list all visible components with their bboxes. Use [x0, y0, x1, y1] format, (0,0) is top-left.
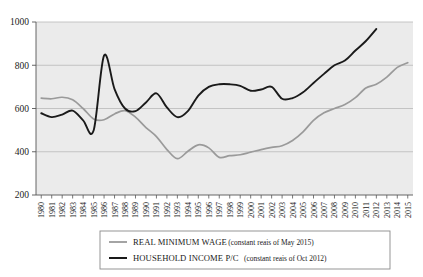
- x-axis-tick-label: 1981: [48, 202, 57, 218]
- x-axis-tick-label: 1999: [236, 202, 245, 218]
- x-axis-tick-label: 1987: [111, 202, 120, 218]
- x-axis-tick-label: 1982: [58, 202, 67, 218]
- y-axis-tick-label: 600: [15, 104, 30, 114]
- x-axis-tick-label: 1998: [226, 202, 235, 218]
- y-axis-tick-label: 200: [15, 190, 30, 200]
- legend-item-note: (constant reais of May 2015): [228, 238, 314, 247]
- y-axis-ticks: [32, 22, 36, 195]
- x-axis-tick-labels: 1980198119821983198419851986198719881989…: [37, 202, 413, 218]
- x-axis-tick-label: 1983: [69, 202, 78, 218]
- x-axis-tick-label: 1989: [131, 202, 140, 218]
- x-axis-tick-label: 1996: [205, 202, 214, 218]
- legend-item-label: REAL MINIMUM WAGE: [133, 237, 227, 247]
- x-axis-tick-label: 2003: [278, 202, 287, 218]
- line-chart: 2004006008001000 19801981198219831984198…: [0, 0, 423, 277]
- x-axis-tick-label: 2008: [330, 202, 339, 218]
- x-axis-ticks: [41, 195, 408, 199]
- x-axis-tick-label: 2014: [393, 202, 402, 218]
- x-axis-tick-label: 2001: [257, 202, 266, 218]
- x-axis-tick-label: 2005: [299, 202, 308, 218]
- legend: REAL MINIMUM WAGE(constant reais of May …: [100, 231, 390, 269]
- legend-item-note: (constant reais of Oct 2012): [244, 254, 327, 263]
- x-axis-tick-label: 1984: [79, 202, 88, 218]
- x-axis-tick-label: 1991: [152, 202, 161, 218]
- y-axis-tick-labels: 2004006008001000: [10, 17, 29, 200]
- legend-item-label: HOUSEHOLD INCOME P/C: [133, 253, 239, 263]
- x-axis-tick-label: 1988: [121, 202, 130, 218]
- chart-container: 2004006008001000 19801981198219831984198…: [0, 0, 423, 277]
- x-axis-tick-label: 2013: [383, 202, 392, 218]
- x-axis-tick-label: 2015: [404, 202, 413, 218]
- x-axis-tick-label: 2007: [320, 202, 329, 218]
- y-axis-tick-label: 1000: [10, 17, 29, 27]
- x-axis-tick-label: 1990: [142, 202, 151, 218]
- y-axis-tick-label: 400: [15, 147, 30, 157]
- x-axis-tick-label: 2011: [362, 202, 371, 218]
- x-axis-tick-label: 1997: [215, 202, 224, 218]
- x-axis-tick-label: 2006: [310, 202, 319, 218]
- x-axis-tick-label: 2000: [247, 202, 256, 218]
- x-axis-tick-label: 1985: [90, 202, 99, 218]
- x-axis-tick-label: 1993: [173, 202, 182, 218]
- x-axis-tick-label: 2002: [268, 202, 277, 218]
- y-axis-tick-label: 800: [15, 61, 30, 71]
- x-axis-tick-label: 1986: [100, 202, 109, 218]
- x-axis-tick-label: 1994: [184, 202, 193, 218]
- x-axis-tick-label: 1995: [194, 202, 203, 218]
- x-axis-tick-label: 2010: [351, 202, 360, 218]
- x-axis-tick-label: 1992: [163, 202, 172, 218]
- x-axis-tick-label: 2009: [341, 202, 350, 218]
- x-axis-tick-label: 1980: [37, 202, 46, 218]
- x-axis-tick-label: 2004: [289, 202, 298, 218]
- x-axis-tick-label: 2012: [372, 202, 381, 218]
